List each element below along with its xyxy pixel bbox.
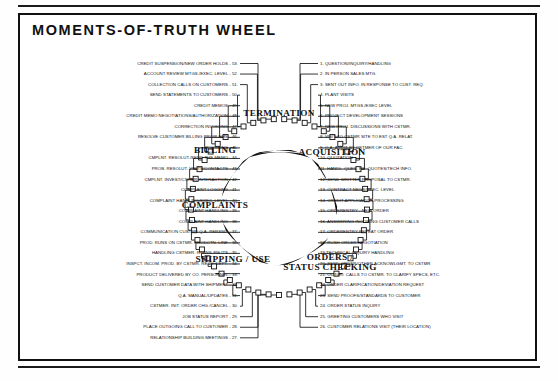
moment-label-left: Q.A. MANUAL/UPDATES - 31. (178, 293, 238, 299)
moment-label-right: 15. ORDERENTRY - NEW ORDER (320, 208, 389, 214)
moment-box (302, 120, 307, 125)
moment-label-left: RESOLVE CUSTOMER BILLING PROBLEMS - 46. (138, 134, 238, 140)
bottom-rule (18, 366, 540, 368)
section-label-complaints: COMPLAINTS (182, 200, 248, 210)
section-label-orders-status-checking: ORDERS /STATUS CHECKING (283, 252, 377, 272)
moment-label-left: ACCOUNT REVIEW MTGS./EXEC. LEVEL - 52. (144, 71, 238, 77)
moment-label-right: 3. SENT OUT INFO. IN RESPONSE TO CUST. R… (320, 82, 424, 88)
connector-line (312, 289, 318, 306)
moment-box (292, 118, 297, 123)
moment-label-left: CREDIT SUSPENSION/NEW ORDER HOLDS - 53. (137, 61, 238, 67)
moment-label-right: 7. NEW PROJ. DISCUSSIONS WITH CSTMR. (320, 124, 411, 130)
moment-box (287, 292, 292, 297)
wheel-graphic (0, 0, 558, 381)
moment-label-left: PRODUCT DELIVERED BY CO. PERSONNEL - 33. (136, 272, 238, 278)
moment-label-right: 24. ORDER STATUS INQUIRY (320, 303, 380, 309)
moment-label-left: COMMUNICATION CUSTMR Q.A. PERSNL. - 37. (141, 229, 238, 235)
moment-label-left: RELATIONSHIP BUILDING MEETINGS - 27. (150, 335, 238, 341)
moment-label-right: 14. CREDIT APPLICATION PROCESSING (320, 198, 404, 204)
moment-label-left: JOB STATUS REPORT - 29. (182, 314, 238, 320)
moment-label-right: 12. SEND WRITTEN PROPOSAL TO CSTMR. (320, 177, 411, 183)
moment-label-right: 16. ANSWERING INCOMING CUSTOMER CALLS (320, 219, 419, 225)
moment-label-left: SEND STATEMENTS TO CUSTOMERS - 50. (150, 92, 238, 98)
moment-label-left: CORRECTION INVOICING - 47. (174, 124, 238, 130)
moment-box (277, 293, 282, 298)
connector-line (240, 289, 246, 306)
moment-label-right: 23. SEND PROOFS/STANDARDS TO CUSTOMER (320, 293, 420, 299)
connector-line (238, 95, 241, 126)
moment-label-left: COMPLAINT HANDLING - 38. (179, 219, 238, 225)
moment-label-left: PROD. RUNS ON CSTMR. PRODCTN. LINE - 36. (140, 240, 238, 246)
moment-label-right: 8. VISIT TO CSTMR SITE TO EST Q.A. RELAT… (320, 134, 413, 140)
moment-label-right: 26. CUSTOMER RELATIONS VISIT (THEIR LOCA… (320, 324, 431, 330)
connector-line (292, 294, 318, 327)
moment-label-left: CREDIT MEMOS - 49. (194, 103, 238, 109)
moment-label-left: PROB. RESOLUT. VISITS/CONTACTS - 43. (152, 166, 238, 172)
moment-label-right: 17. ORDERENTRY-REPEAT ORDER (320, 229, 393, 235)
moment-box (241, 124, 246, 129)
moment-box (312, 124, 317, 129)
moment-label-right: 4. PLANT VISITS (320, 92, 354, 98)
connector-line (240, 294, 266, 327)
moment-label-right: 5. NEW PROJ. MTGS./EXEC LEVEL (320, 103, 392, 109)
moment-label-left: CMPLNT. INVEST/CSTMR INTERACTION - 42. (145, 177, 238, 183)
moment-label-right: 2. IN PERSON SALES MTG. (320, 71, 376, 77)
section-label-shipping-use: SHIPPING / USE (195, 254, 270, 264)
moment-label-right: 22. ORDER CLARIFICATION/DEVIATION REQUES… (320, 282, 424, 288)
moment-box (246, 287, 251, 292)
moment-label-right: 11. HANDL. QUES. RE. QUOTES/TECH INFO. (320, 166, 412, 172)
section-label-termination: TERMINATION (243, 108, 315, 118)
moment-label-right: 13. CONTRACT NEGS/EXEC. LEVEL (320, 187, 394, 193)
moment-label-left: CREDIT MEMO NEGOTIATIONS/AUTHORIZATION -… (126, 113, 238, 119)
moment-label-left: SEND CUSTOMER DATA WITH SHIPMENT - 32. (142, 282, 239, 288)
moments-of-truth-wheel-page: MOMENTS-OF-TRUTH WHEEL CREDIT SUSPENSION… (0, 0, 558, 381)
moment-label-right: 6. PROJECT DEVELOPMENT SESSIONS (320, 113, 403, 119)
moment-label-left: PLACE OUTGOING CALL TO CUSTOMER - 28. (143, 324, 238, 330)
moment-label-right: 1. QUESTION/INQUIRY/HANDLING (320, 61, 391, 67)
moment-label-right: 18. RUSH ORDER NEGOTIATION (320, 240, 388, 246)
moment-box (251, 120, 256, 125)
moment-box (261, 118, 266, 123)
moment-box (266, 292, 271, 297)
moment-box (297, 290, 302, 295)
moment-box (307, 287, 312, 292)
section-label-acquisition: ACQUISITION (298, 147, 365, 157)
moment-label-right: 25. GREETING CUSTOMERS WHO VISIT (320, 314, 403, 320)
moment-label-left: CMPLNT. RESOLUT./SEND THE MEMO - 44. (149, 155, 238, 161)
section-label-billing: BILLING (194, 145, 236, 155)
moment-box (256, 290, 261, 295)
moment-label-left: CSTMER. INIT. ORDER CHG./CANCEL - 30. (150, 303, 238, 309)
connector-line (317, 95, 320, 126)
moment-label-left: COMPLAINT LOGGING - 41. (181, 187, 238, 193)
moment-label-left: COLLECTION CALLS ON CUSTOMERS - 51. (148, 82, 238, 88)
moment-label-right: 21. OUTGO. CALLS TO CSTMR. TO CLARIFY SP… (320, 272, 440, 278)
